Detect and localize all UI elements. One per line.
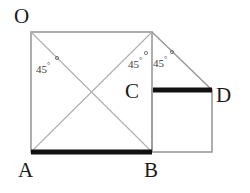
- angle-label-1-value: 45: [36, 63, 47, 75]
- vertex-label-o: O: [14, 6, 29, 27]
- angle-label-3-value: 45: [153, 57, 164, 69]
- vertex-label-a: A: [18, 160, 33, 181]
- vertex-label-d: D: [216, 85, 231, 106]
- vertex-label-c: C: [125, 81, 139, 102]
- degree-icon: °: [164, 55, 167, 64]
- angle-label-3: 45°: [153, 54, 167, 69]
- small-square-outline: [152, 90, 212, 152]
- angle-label-2-value: 45: [128, 58, 139, 70]
- degree-icon: °: [47, 61, 50, 70]
- angle-label-2: 45°: [128, 55, 142, 70]
- degree-icon: °: [139, 56, 142, 65]
- angle-label-1: 45°: [36, 60, 50, 75]
- geometry-figure: O A B C D 45° 45° 45°: [0, 0, 250, 193]
- vertex-label-b: B: [144, 160, 158, 181]
- angle-mark-2-dot: [144, 51, 147, 54]
